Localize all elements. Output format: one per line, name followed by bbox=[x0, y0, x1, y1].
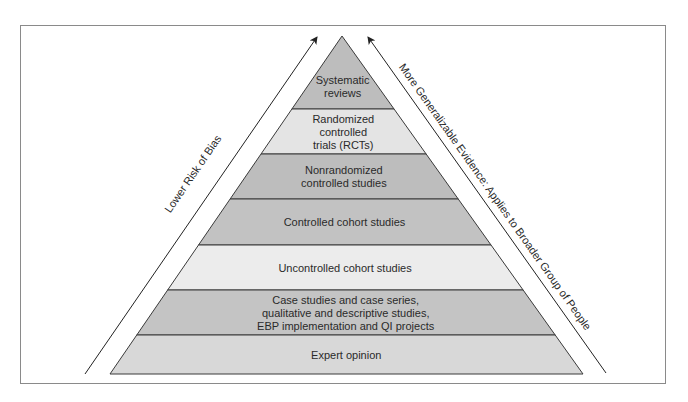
pyramid-level-label: Randomizedcontrolledtrials (RCTs) bbox=[312, 113, 374, 151]
pyramid-level-label: Controlled cohort studies bbox=[284, 216, 406, 228]
pyramid-level-label: Case studies and case series,qualitative… bbox=[257, 294, 435, 332]
evidence-pyramid: SystematicreviewsRandomizedcontrolledtri… bbox=[0, 0, 688, 402]
left-arrow-label: Lower Risk of Bias bbox=[162, 132, 224, 214]
pyramid-level-label: Nonrandomizedcontrolled studies bbox=[301, 164, 387, 189]
pyramid-level-label: Expert opinion bbox=[311, 349, 381, 361]
pyramid-level-label: Uncontrolled cohort studies bbox=[278, 262, 412, 274]
